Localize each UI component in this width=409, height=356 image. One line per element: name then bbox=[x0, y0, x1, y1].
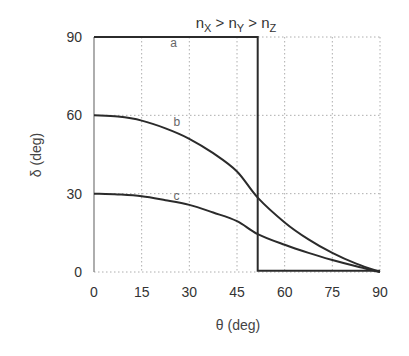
y-tick-label: 60 bbox=[66, 107, 82, 123]
y-tick-label: 0 bbox=[74, 264, 82, 280]
y-tick-label: 30 bbox=[66, 186, 82, 202]
y-tick-labels: 0306090 bbox=[66, 29, 82, 280]
x-tick-label: 75 bbox=[325, 284, 341, 300]
x-tick-label: 90 bbox=[372, 284, 388, 300]
x-axis-label: θ (deg) bbox=[216, 317, 260, 333]
x-tick-label: 45 bbox=[229, 284, 245, 300]
x-tick-label: 0 bbox=[90, 284, 98, 300]
y-axis-label: δ (deg) bbox=[28, 133, 44, 177]
x-tick-label: 15 bbox=[134, 284, 150, 300]
grid-lines bbox=[94, 37, 380, 272]
curve-label-a: a bbox=[170, 36, 177, 50]
x-tick-label: 60 bbox=[277, 284, 293, 300]
curve-label-c: c bbox=[173, 189, 179, 203]
x-tick-labels: 0153045607590 bbox=[90, 284, 388, 300]
chart: nX > nY > nZ 0153045607590 0306090 θ (de… bbox=[0, 0, 409, 356]
curve-label-b: b bbox=[173, 115, 180, 129]
y-tick-label: 90 bbox=[66, 29, 82, 45]
chart-title: nX > nY > nZ bbox=[196, 14, 277, 34]
x-tick-label: 30 bbox=[182, 284, 198, 300]
